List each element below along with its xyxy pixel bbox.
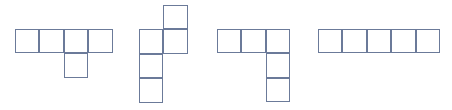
shape-4 <box>0 0 452 110</box>
shape-4-cell <box>391 29 415 53</box>
shape-4-cell <box>416 29 440 53</box>
shape-4-cell <box>318 29 342 53</box>
shape-4-cell <box>342 29 366 53</box>
shape-4-cell <box>367 29 391 53</box>
polyomino-figure-canvas <box>0 0 452 110</box>
